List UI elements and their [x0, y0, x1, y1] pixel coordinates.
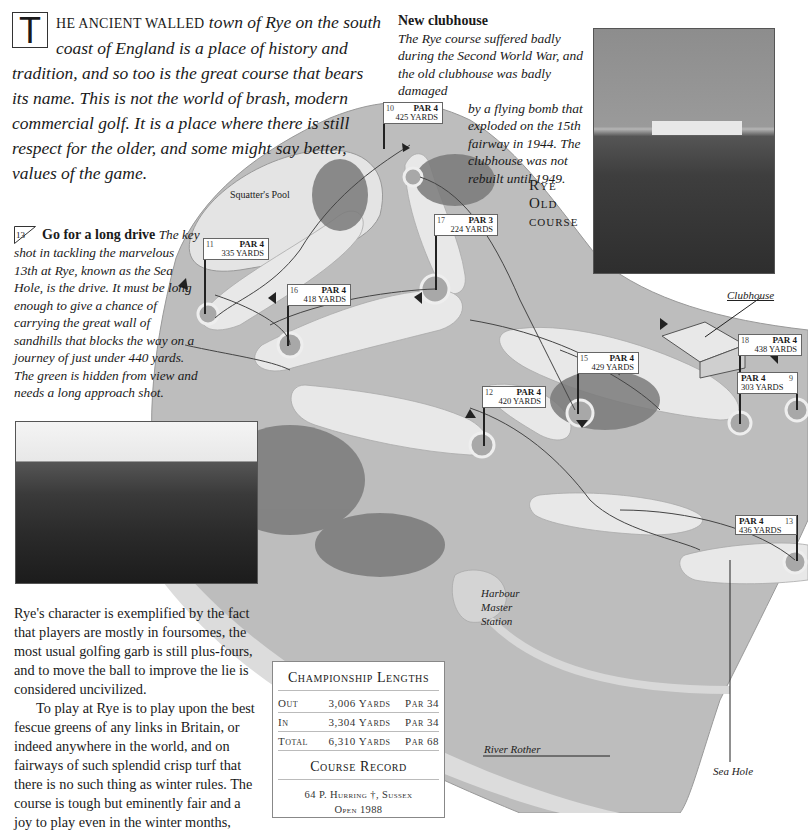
hole-number: 12: [485, 388, 493, 397]
row-label: Out: [278, 697, 314, 709]
hole-number: 13: [785, 517, 793, 526]
row-par: Par 34: [405, 716, 439, 728]
hole-flag-12[interactable]: 12 PAR 4 420 YARDS: [482, 386, 546, 408]
hole-number: 16: [290, 286, 298, 295]
row-yards: 3,006 Yards: [329, 697, 391, 709]
hole-number: 15: [580, 354, 588, 363]
row-yards: 6,310 Yards: [329, 735, 391, 747]
hole-yards: 436 YARDS: [739, 526, 781, 535]
body-paragraph-1: Rye's character is exemplified by the fa…: [14, 604, 260, 699]
intro-paragraph: T HE ANCIENT WALLED town of Rye on the s…: [12, 10, 384, 186]
course-title-line1: Rye: [529, 176, 578, 194]
label-sea-hole: Sea Hole: [713, 764, 753, 778]
label-clubhouse: Clubhouse: [727, 288, 774, 302]
clubhouse-photo: [593, 28, 775, 274]
label-river-rother: River Rother: [484, 742, 541, 756]
course-record-title: Course Record: [278, 759, 439, 780]
hole-flag-15[interactable]: 15 PAR 4 429 YARDS: [577, 352, 639, 374]
course-record-line1: 64 P. Hurring †, Sussex: [278, 783, 439, 802]
hole-flag-16[interactable]: 16 PAR 4 418 YARDS: [287, 284, 351, 306]
row-label: In: [278, 716, 314, 728]
clubhouse-note-heading: New clubhouse: [398, 12, 598, 30]
drive-note-text: The key shot in tackling the marvelous 1…: [14, 227, 200, 400]
hole-number: 10: [386, 104, 394, 113]
lengths-row-in: In 3,304 Yards Par 34: [278, 713, 439, 732]
row-par: Par 68: [405, 735, 439, 747]
hole-yards: 429 YARDS: [592, 363, 634, 372]
body-text: Rye's character is exemplified by the fa…: [14, 604, 260, 832]
lengths-row-out: Out 3,006 Yards Par 34: [278, 694, 439, 713]
hole-yards: 335 YARDS: [222, 249, 264, 258]
hole-flag-9[interactable]: 9 PAR 4 303 YARDS: [737, 372, 798, 394]
intro-text: town of Rye on the south coast of Englan…: [12, 12, 381, 183]
lengths-row-total: Total 6,310 Yards Par 68: [278, 732, 439, 751]
hole-13-badge: 13: [14, 226, 36, 244]
label-harbour-master: Harbour Master Station: [481, 586, 531, 628]
hole-yards: 420 YARDS: [499, 397, 541, 406]
hole-badge-number: 13: [16, 227, 25, 245]
hole-yards: 418 YARDS: [304, 295, 346, 304]
hole-yards: 425 YARDS: [396, 113, 438, 122]
championship-lengths-box: Championship Lengths Out 3,006 Yards Par…: [272, 661, 445, 818]
hole-number: 9: [789, 374, 793, 383]
course-title: Rye Old course: [529, 176, 578, 230]
hole-number: 18: [741, 336, 749, 345]
hole-flag-11[interactable]: 11 PAR 4 335 YARDS: [203, 238, 269, 260]
clubhouse-note-text-top: The Rye course suffered badly during the…: [398, 30, 598, 100]
row-label: Total: [278, 735, 314, 747]
course-title-line3: course: [529, 212, 578, 230]
hole-flag-18[interactable]: 18 PAR 4 438 YARDS: [738, 334, 802, 356]
championship-lengths-title: Championship Lengths: [278, 670, 439, 691]
drive-note-heading: Go for a long drive: [42, 227, 155, 242]
label-squatters-pool: Squatter's Pool: [230, 188, 290, 202]
course-title-line2: Old: [529, 194, 578, 212]
dropcap: T: [12, 12, 48, 48]
row-yards: 3,304 Yards: [329, 716, 391, 728]
drive-note: 13 Go for a long drive The key shot in t…: [14, 226, 200, 402]
course-photo: [15, 421, 258, 584]
hole-number: 17: [437, 216, 445, 225]
hole-yards: 438 YARDS: [755, 345, 797, 354]
hole-yards: 303 YARDS: [741, 383, 783, 392]
hole-number: 11: [206, 240, 214, 249]
hole-yards: 224 YARDS: [451, 225, 493, 234]
intro-lead: HE ANCIENT WALLED: [56, 16, 204, 31]
body-paragraph-2: To play at Rye is to play upon the best …: [14, 699, 260, 832]
row-par: Par 34: [405, 697, 439, 709]
hole-flag-13[interactable]: 13 PAR 4 436 YARDS: [735, 515, 797, 535]
clubhouse-note: New clubhouse The Rye course suffered ba…: [398, 12, 598, 187]
course-record-line2: Open 1988: [278, 802, 439, 817]
hole-flag-17[interactable]: 17 PAR 3 224 YARDS: [434, 214, 498, 236]
clubhouse-building-photo: [652, 121, 742, 135]
hole-flag-10[interactable]: 10 PAR 4 425 YARDS: [383, 102, 443, 124]
